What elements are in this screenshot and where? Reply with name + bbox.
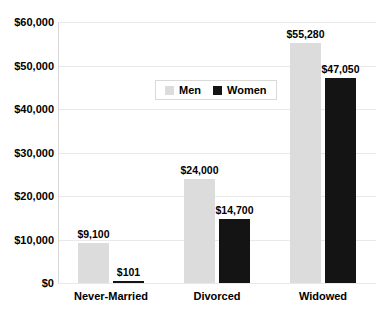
x-tick-label-widowed: Widowed [299, 290, 347, 302]
gridline--0 [58, 283, 376, 284]
y-tick-label: $20,000 [0, 190, 54, 202]
bar-value-label-women-divorced: $14,700 [216, 204, 254, 216]
y-tick-label: $30,000 [0, 147, 54, 159]
x-tick-label-divorced: Divorced [193, 290, 240, 302]
legend-item-women: Women [213, 84, 267, 96]
legend: MenWomen [155, 80, 277, 100]
bar-value-label-men-divorced: $24,000 [181, 164, 219, 176]
bar-value-label-women-widowed: $47,050 [322, 63, 360, 75]
y-tick-label: $40,000 [0, 103, 54, 115]
legend-item-men: Men [165, 84, 201, 96]
legend-swatch-women [213, 86, 222, 95]
bar-chart: $0$10,000$20,000$30,000$40,000$50,000$60… [0, 0, 385, 315]
legend-swatch-men [165, 86, 174, 95]
bar-value-label-men-never-married: $9,100 [77, 228, 109, 240]
legend-label-men: Men [179, 84, 201, 96]
bar-men-never-married [78, 243, 109, 283]
bar-women-widowed [325, 78, 356, 283]
bar-value-label-women-never-married: $101 [117, 266, 140, 278]
y-tick-label: $60,000 [0, 16, 54, 28]
legend-label-women: Women [227, 84, 267, 96]
bar-women-divorced [219, 219, 250, 283]
bar-men-widowed [290, 43, 321, 283]
y-tick-label: $50,000 [0, 60, 54, 72]
bar-value-label-men-widowed: $55,280 [287, 28, 325, 40]
gridline--60-000 [58, 22, 376, 23]
x-tick-label-never-married: Never-Married [74, 290, 148, 302]
y-axis-line [58, 22, 59, 283]
y-tick-label: $0 [0, 277, 54, 289]
y-tick-label: $10,000 [0, 234, 54, 246]
bar-men-divorced [184, 179, 215, 283]
bar-women-never-married [113, 281, 144, 283]
